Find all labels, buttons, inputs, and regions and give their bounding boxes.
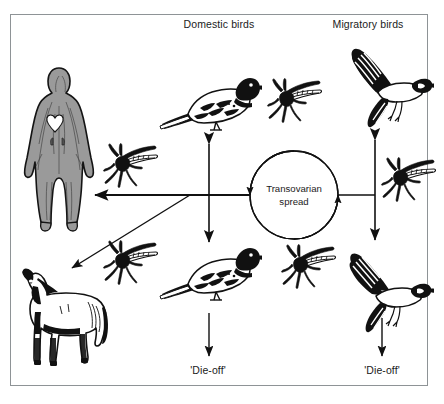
mosquito-upper-center	[264, 78, 326, 124]
transovarian-label-line2: spread	[279, 195, 308, 208]
label-die-off-migratory: 'Die-off'	[364, 364, 400, 376]
horse-figure	[8, 262, 112, 368]
migratory-bird-top	[342, 44, 434, 136]
domestic-bird-bottom	[158, 242, 262, 308]
mosquito-lower-center	[278, 244, 340, 290]
domestic-bird-top	[158, 72, 262, 138]
mosquito-right	[378, 157, 440, 203]
transovarian-label-line1: Transovarian	[266, 182, 322, 195]
transovarian-cycle-node: Transovarian spread	[250, 151, 338, 239]
label-migratory-birds: Migratory birds	[333, 18, 404, 30]
transovarian-label: Transovarian spread	[250, 151, 338, 239]
label-domestic-birds: Domestic birds	[184, 18, 255, 30]
human-figure	[22, 62, 96, 234]
mosquito-upper-left	[100, 143, 162, 189]
label-die-off-domestic: 'Die-off'	[190, 364, 226, 376]
mosquito-lower-left	[100, 240, 162, 286]
transmission-cycle-figure: Domestic birds Migratory birds Transovar…	[0, 0, 444, 404]
migratory-bird-bottom	[342, 246, 434, 338]
